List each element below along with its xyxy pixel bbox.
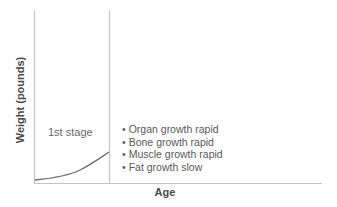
list-item: Bone growth rapid [122,136,223,149]
list-item: Fat growth slow [122,161,223,174]
x-axis-label: Age [155,186,176,198]
list-item: Muscle growth rapid [122,148,223,161]
list-item: Organ growth rapid [122,123,223,136]
characteristics-list: Organ growth rapid Bone growth rapid Mus… [122,123,223,173]
growth-chart: Weight (pounds) Age 1st stage Organ grow… [0,0,337,207]
stage-label: 1st stage [48,126,93,138]
chart-canvas [0,0,337,207]
growth-curve [35,152,109,180]
y-axis-label: Weight (pounds) [14,57,26,144]
